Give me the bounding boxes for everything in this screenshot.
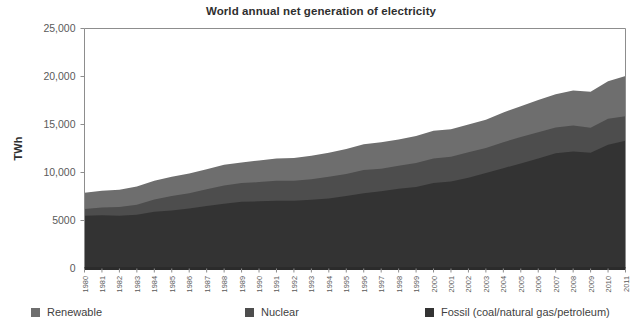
legend-swatch-icon	[31, 308, 40, 317]
x-tick-label: 2005	[517, 276, 526, 292]
legend-item[interactable]: Fossil (coal/natural gas/petroleum)	[425, 303, 610, 321]
y-axis-title: TWh	[12, 136, 24, 160]
chart-legend: RenewableNuclearFossil (coal/natural gas…	[0, 300, 642, 326]
x-tick-label: 1987	[203, 276, 212, 292]
legend-item[interactable]: Renewable	[31, 303, 102, 321]
legend-label: Nuclear	[261, 306, 299, 318]
y-axis-ticks: 25,00020,00015,00010,00050000	[43, 22, 84, 274]
x-tick-label: 2004	[499, 276, 508, 292]
y-tick-label: 5000	[52, 214, 76, 226]
x-tick-label: 2008	[569, 276, 578, 292]
x-tick-label: 1995	[342, 276, 351, 292]
legend-label: Fossil (coal/natural gas/petroleum)	[441, 306, 610, 318]
x-tick-label: 2002	[464, 276, 473, 292]
x-tick-label: 1980	[81, 276, 90, 292]
x-tick-label: 1994	[325, 276, 334, 292]
legend-swatch-icon	[245, 308, 254, 317]
legend-swatch-icon	[425, 308, 434, 317]
chart-figure: World annual net generation of electrici…	[0, 0, 642, 326]
x-tick-label: 2000	[430, 276, 439, 292]
legend-item[interactable]: Nuclear	[245, 303, 299, 321]
y-tick-label: 0	[70, 262, 76, 274]
x-tick-label: 1982	[115, 276, 124, 292]
x-tick-label: 1991	[272, 276, 281, 292]
x-tick-label: 1984	[150, 276, 159, 292]
legend-label: Renewable	[47, 306, 102, 318]
x-tick-label: 1992	[290, 276, 299, 292]
x-tick-label: 1998	[395, 276, 404, 292]
x-tick-label: 1996	[360, 276, 369, 292]
chart-plot-area: 25,00020,00015,00010,00050000 1980198119…	[0, 0, 642, 300]
x-tick-label: 2011	[622, 276, 631, 292]
x-tick-label: 2009	[587, 276, 596, 292]
x-tick-label: 1988	[220, 276, 229, 292]
x-tick-label: 1983	[133, 276, 142, 292]
x-tick-label: 2007	[552, 276, 561, 292]
x-tick-label: 1999	[412, 276, 421, 292]
y-tick-label: 20,000	[43, 70, 75, 82]
stacked-areas	[85, 76, 626, 268]
x-tick-label: 1985	[168, 276, 177, 292]
x-tick-label: 2006	[534, 276, 543, 292]
y-tick-label: 10,000	[43, 166, 75, 178]
x-tick-label: 1993	[307, 276, 316, 292]
x-tick-label: 1989	[238, 276, 247, 292]
x-tick-label: 2010	[604, 276, 613, 292]
x-axis-ticks: 1980198119821983198419851986198719881989…	[81, 269, 631, 293]
x-tick-label: 1986	[185, 276, 194, 292]
x-tick-label: 1990	[255, 276, 264, 292]
y-tick-label: 25,000	[43, 22, 75, 34]
x-tick-label: 1981	[98, 276, 107, 292]
x-tick-label: 1997	[377, 276, 386, 292]
x-tick-label: 2003	[482, 276, 491, 292]
x-tick-label: 2001	[447, 276, 456, 292]
y-tick-label: 15,000	[43, 118, 75, 130]
